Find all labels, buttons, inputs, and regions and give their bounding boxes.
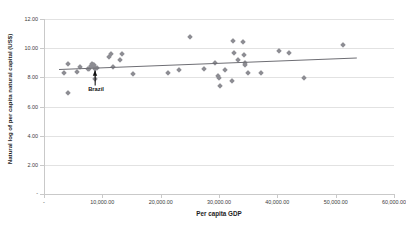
annotation-label-brazil: Brazil: [88, 86, 104, 92]
x-tick-label: 20,000.00: [149, 199, 173, 205]
x-tick-mark: [394, 194, 395, 198]
gridline-10: [44, 48, 394, 49]
y-tick-label: -: [4, 190, 38, 196]
gridline-6: [44, 107, 394, 108]
x-tick-mark: [277, 194, 278, 198]
y-tick-mark: [40, 136, 44, 137]
gridline-12: [44, 19, 394, 20]
x-tick-mark: [336, 194, 337, 198]
y-tick-mark: [40, 165, 44, 166]
x-axis-title: Per capita GDP: [44, 210, 394, 217]
x-tick-label: 60,000.00: [382, 199, 406, 205]
x-tick-label: 10,000.00: [90, 199, 114, 205]
y-tick-mark: [40, 48, 44, 49]
gridline-4: [44, 136, 394, 137]
gridline-2: [44, 165, 394, 166]
y-tick-mark: [40, 107, 44, 108]
x-tick-label: 40,000.00: [265, 199, 289, 205]
y-axis-line: [44, 19, 45, 195]
x-tick-mark: [219, 194, 220, 198]
x-tick-mark: [161, 194, 162, 198]
x-tick-label: 50,000.00: [324, 199, 348, 205]
y-tick-mark: [40, 19, 44, 20]
x-tick-mark: [44, 194, 45, 198]
y-axis-title: Natural log of per capita natural capita…: [4, 24, 15, 174]
x-tick-label: 30,000.00: [207, 199, 231, 205]
x-tick-label: -: [43, 199, 45, 205]
y-tick-mark: [40, 77, 44, 78]
y-tick-label: 12.00: [4, 16, 38, 22]
x-tick-mark: [102, 194, 103, 198]
